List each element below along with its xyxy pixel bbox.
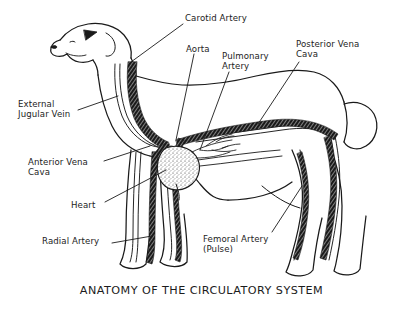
figure-title: ANATOMY OF THE CIRCULATORY SYSTEM — [0, 284, 403, 297]
label-femoral-artery: Femoral Artery (Pulse) — [203, 234, 268, 254]
dog-head-outline — [51, 23, 136, 76]
label-anterior-vena-cava: Anterior Vena Cava — [28, 157, 88, 177]
label-carotid-artery: Carotid Artery — [185, 13, 247, 23]
label-aorta: Aorta — [186, 44, 210, 54]
label-posterior-vena-cava: Posterior Vena Cava — [296, 39, 359, 59]
heart-organ — [157, 146, 199, 200]
label-pulmonary-artery: Pulmonary Artery — [222, 51, 269, 71]
thorax-contour — [198, 150, 282, 166]
label-radial-artery: Radial Artery — [42, 236, 99, 246]
label-heart: Heart — [71, 200, 95, 210]
label-external-jugular-vein: External Jugular Vein — [18, 99, 70, 119]
circulatory-system-figure: Carotid Artery Aorta Pulmonary Artery Po… — [0, 0, 403, 317]
